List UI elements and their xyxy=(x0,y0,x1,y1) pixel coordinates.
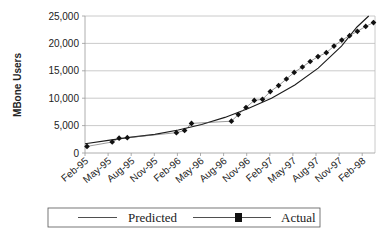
y-axis: 05,00010,00015,00020,00025,000 xyxy=(48,11,85,159)
mbone-users-chart: 05,00010,00015,00020,00025,000 Feb-95May… xyxy=(0,0,387,242)
gridlines xyxy=(85,16,375,153)
series-group xyxy=(84,16,376,149)
y-tick-label: 15,000 xyxy=(48,65,79,76)
predicted-line xyxy=(85,16,369,144)
actual-data-point xyxy=(363,24,369,30)
actual-data-point xyxy=(124,135,130,141)
x-axis: Feb-95May-95Aug-95Nov-95Feb-96May-96Aug-… xyxy=(59,153,375,185)
y-tick-label: 5,000 xyxy=(54,120,79,131)
legend-predicted-label: Predicted xyxy=(128,210,178,225)
y-axis-title: MBone Users xyxy=(12,53,23,117)
y-tick-label: 20,000 xyxy=(48,38,79,49)
legend: Predicted Actual xyxy=(48,208,320,227)
y-tick-label: 25,000 xyxy=(48,11,79,22)
actual-line xyxy=(87,23,374,147)
actual-data-point xyxy=(371,20,377,26)
y-tick-label: 10,000 xyxy=(48,93,79,104)
actual-data-point xyxy=(300,64,306,70)
actual-data-point xyxy=(339,37,345,43)
actual-data-point xyxy=(307,59,313,65)
legend-actual-label: Actual xyxy=(281,210,316,225)
y-tick-label: 0 xyxy=(73,148,79,159)
actual-data-point xyxy=(315,54,321,60)
actual-data-point xyxy=(116,135,122,141)
legend-actual-marker-icon xyxy=(235,213,242,222)
x-tick-label: Feb-98 xyxy=(336,155,368,184)
